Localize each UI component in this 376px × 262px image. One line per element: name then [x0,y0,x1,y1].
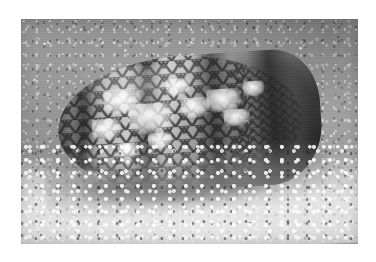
tent-blotch [242,80,264,96]
page-root [0,0,376,262]
foreground-rubble-grain [21,143,358,244]
tent-blotch [223,108,250,127]
tent-blotch [166,78,191,97]
photo-frame [21,19,358,244]
tent-blotch [128,102,174,134]
tent-blotch [92,119,122,141]
